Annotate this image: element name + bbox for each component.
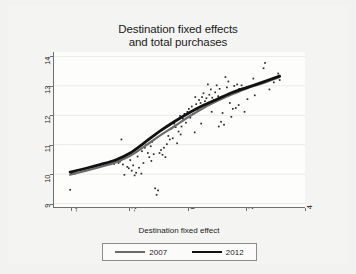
scatter-point	[279, 79, 281, 81]
scatter-point	[188, 108, 190, 110]
scatter-point	[185, 122, 187, 124]
scatter-point	[263, 67, 265, 69]
scatter-point	[217, 95, 219, 97]
scatter-point	[233, 85, 235, 87]
chart-title: Destination fixed effects and total purc…	[8, 23, 348, 49]
scatter-point	[153, 153, 155, 155]
scatter-point	[220, 121, 222, 123]
scatter-point	[180, 134, 182, 136]
scatter-point	[163, 147, 165, 149]
scatter-point	[244, 111, 246, 113]
scatter-point	[150, 145, 152, 147]
scatter-point	[209, 94, 211, 96]
scatter-point	[241, 84, 243, 86]
scatter-point	[203, 92, 205, 94]
scatter-point	[131, 170, 133, 172]
legend-line-swatch	[192, 251, 222, 253]
scatter-point	[211, 97, 213, 99]
scatter-point	[264, 62, 266, 64]
scatter-point	[162, 154, 164, 156]
scatter-point	[132, 165, 134, 167]
chart-title-line-2: and total purchases	[8, 36, 348, 49]
scatter-point	[69, 189, 71, 191]
scatter-point	[247, 98, 249, 100]
scatter-point	[126, 166, 128, 168]
scatter-point	[232, 108, 234, 110]
scatter-point	[195, 103, 197, 105]
scatter-point	[201, 96, 203, 98]
scatter-point	[214, 92, 216, 94]
scatter-point	[223, 124, 225, 126]
scatter-point	[191, 106, 193, 108]
scatter-point	[156, 194, 158, 196]
scatter-point	[277, 73, 279, 75]
plot-frame	[53, 52, 305, 208]
scatter-point	[228, 81, 230, 83]
scatter-point	[198, 99, 200, 101]
legend-label: 2012	[226, 248, 244, 257]
scatter-point	[218, 126, 220, 128]
scatter-point	[229, 102, 231, 104]
legend-entry-2012: 2012	[192, 248, 244, 257]
x-tick-label: 4	[305, 205, 314, 221]
scatter-point	[207, 84, 209, 86]
y-tick-label: 11	[43, 145, 52, 165]
scatter-point	[222, 112, 224, 114]
plot-area	[54, 52, 305, 207]
scatter-point	[143, 162, 145, 164]
y-tick-label: 12	[43, 115, 52, 135]
scatter-point	[200, 123, 202, 125]
scatter-point	[211, 111, 213, 113]
scatter-point	[150, 160, 152, 162]
scatter-point	[194, 96, 196, 98]
x-axis-title: Destination fixed effect	[53, 226, 305, 235]
scatter-point	[194, 132, 196, 134]
scatter-point	[200, 102, 202, 104]
scatter-point	[225, 76, 227, 78]
scatter-point	[269, 89, 271, 91]
legend-line-swatch	[115, 251, 145, 253]
scatter-point	[165, 156, 167, 158]
y-tick-label: 10	[43, 174, 52, 194]
fit-line-2007	[70, 77, 280, 175]
scatter-point	[147, 152, 149, 154]
scatter-point	[219, 88, 221, 90]
scatter-point	[210, 89, 212, 91]
scatter-point	[254, 94, 256, 96]
scatter-point	[124, 174, 126, 176]
scatter-point	[121, 139, 123, 141]
scatter-point	[141, 173, 143, 175]
scatter-point	[235, 107, 237, 109]
scatter-point	[206, 97, 208, 99]
scatter-point	[273, 82, 275, 84]
scatter-point	[230, 116, 232, 118]
plot-svg	[54, 52, 305, 207]
scatter-point	[166, 143, 168, 145]
legend-label: 2007	[149, 248, 167, 257]
scatter-point	[141, 150, 143, 152]
scatter-point	[122, 164, 124, 166]
chart-legend: 20072012	[102, 243, 257, 261]
scatter-point	[238, 104, 240, 106]
scatter-point	[157, 190, 159, 192]
scatter-point	[181, 126, 183, 128]
figure-inner: Destination fixed effects and total purc…	[8, 6, 348, 264]
scatter-point	[138, 167, 140, 169]
scatter-point	[252, 78, 254, 80]
scatter-point	[226, 87, 228, 89]
y-tick-label: 13	[43, 86, 52, 106]
scatter-point	[128, 167, 130, 169]
scatter-point	[167, 135, 169, 137]
scatter-point	[204, 100, 206, 102]
legend-entry-2007: 2007	[115, 248, 167, 257]
scatter-point	[129, 159, 131, 161]
scatter-point	[135, 172, 137, 174]
scatter-point	[148, 156, 150, 158]
scatter-point	[159, 152, 161, 154]
scatter-point	[137, 156, 139, 158]
scatter-point	[216, 84, 218, 86]
chart-title-line-1: Destination fixed effects	[8, 23, 348, 36]
scatter-point	[169, 139, 171, 141]
scatter-point	[134, 175, 136, 177]
scatter-point	[154, 187, 156, 189]
